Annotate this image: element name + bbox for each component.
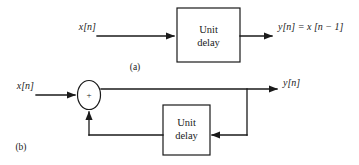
- panel-a-output-label: y[n] = x [n − 1]: [277, 21, 344, 32]
- panel-b-block-label-line1: Unit: [177, 117, 196, 128]
- panel-a-group: [97, 8, 272, 62]
- panel-a-block-label-line2: delay: [197, 37, 220, 48]
- panel-a-unit-delay-block: [177, 8, 240, 62]
- panel-a-block-label-line1: Unit: [199, 24, 218, 35]
- panel-b-block-label-line2: delay: [175, 130, 198, 141]
- panel-b-adder-sign: +: [86, 90, 91, 100]
- panel-b-group: [36, 81, 277, 156]
- panel-a-input-label: x[n]: [78, 21, 96, 32]
- panel-a-caption: (a): [130, 62, 141, 73]
- figure-canvas: Unit delay x[n] y[n] = x [n − 1] (a) + x…: [0, 0, 359, 165]
- panel-b-output-label: y[n]: [282, 77, 300, 88]
- block-diagram-svg: Unit delay x[n] y[n] = x [n − 1] (a) + x…: [0, 0, 359, 165]
- panel-b-caption: (b): [15, 142, 26, 153]
- panel-b-input-label: x[n]: [16, 80, 34, 91]
